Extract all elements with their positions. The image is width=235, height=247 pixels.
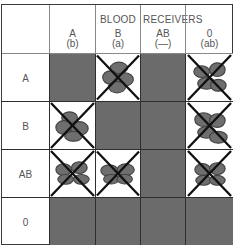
row-label-a: A (2, 54, 50, 102)
column-antibody: (a) (112, 38, 124, 49)
column-header-ab: AB(—) (141, 5, 186, 54)
cell-compatible (141, 198, 186, 245)
cell-agglutinated (96, 150, 141, 198)
cell-compatible (50, 54, 96, 102)
column-antibody: (b) (66, 38, 78, 49)
clumped-cells-icon (186, 54, 233, 101)
clumped-cells-icon (186, 102, 233, 149)
column-header-a: A(b) (50, 5, 96, 54)
cell-compatible (141, 150, 186, 198)
clumped-cells-icon (50, 102, 95, 149)
cell-compatible (186, 198, 233, 245)
cell-compatible (96, 102, 141, 150)
clumped-cells-icon (96, 150, 140, 197)
cell-agglutinated (96, 54, 141, 102)
column-antibody: (ab) (201, 38, 219, 49)
cell-agglutinated (186, 102, 233, 150)
row-label-ab: AB (2, 150, 50, 198)
blood-compatibility-grid: BLOOD RECEIVERS A(b) B(a) AB(—) 0(ab) A … (1, 4, 233, 245)
cell-compatible (141, 54, 186, 102)
row-label-0: 0 (2, 198, 50, 245)
cell-agglutinated (50, 102, 96, 150)
cell-compatible (141, 102, 186, 150)
cell-compatible (50, 198, 96, 245)
column-header-b: B(a) (96, 5, 141, 54)
column-antibody: (—) (155, 38, 172, 49)
clumped-cells-icon (186, 150, 233, 197)
corner-cell (2, 5, 50, 54)
cell-agglutinated (186, 54, 233, 102)
row-label-b: B (2, 102, 50, 150)
column-header-0: 0(ab) (186, 5, 233, 54)
cell-agglutinated (50, 150, 96, 198)
cell-agglutinated (186, 150, 233, 198)
clumped-cells-icon (96, 54, 140, 101)
clumped-cells-icon (50, 150, 95, 197)
cell-compatible (96, 198, 141, 245)
